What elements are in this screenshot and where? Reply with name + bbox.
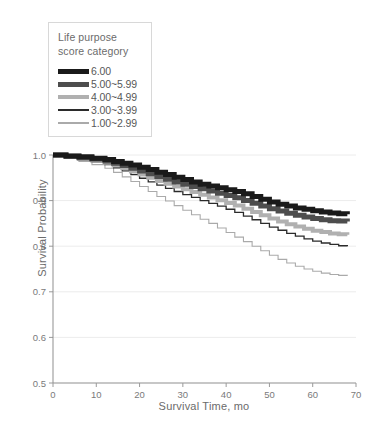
y-tick-label: 0.6	[33, 332, 46, 343]
x-tick-label: 60	[307, 389, 318, 400]
x-tick-label: 20	[134, 389, 145, 400]
series-line	[53, 155, 347, 235]
x-axis-title: Survival Time, mo	[53, 400, 355, 412]
x-tick-label: 50	[264, 389, 275, 400]
y-axis-title: Survival Probability	[36, 148, 48, 308]
survival-curve-chart: 0.50.60.70.80.91.0010203040506070 Surviv…	[0, 0, 380, 424]
x-tick-label: 30	[178, 389, 189, 400]
chart-canvas: 0.50.60.70.80.91.0010203040506070	[0, 0, 380, 424]
y-tick-label: 0.5	[33, 378, 46, 389]
x-tick-label: 70	[351, 389, 362, 400]
x-tick-label: 0	[50, 389, 55, 400]
series-line	[53, 155, 347, 214]
x-tick-label: 10	[91, 389, 102, 400]
x-tick-label: 40	[221, 389, 232, 400]
